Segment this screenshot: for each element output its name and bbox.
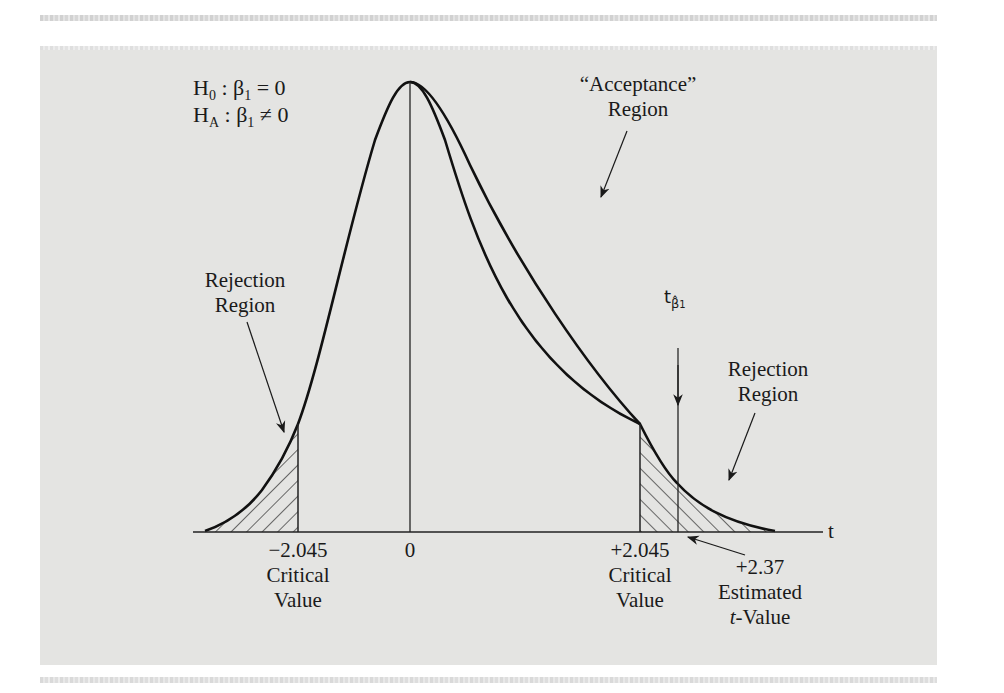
beta-symbol: : β	[216, 75, 244, 100]
beta-subscript: 1	[679, 299, 685, 310]
axis-label-t: t	[828, 519, 834, 544]
tick-value: −2.045	[243, 538, 353, 563]
t-hat-label: tβ̂1	[664, 284, 686, 317]
left-rejection-arrow	[247, 322, 284, 432]
t-distribution-curve-right	[410, 82, 775, 531]
estimated-t-value-label: +2.37 Estimated t-Value	[705, 555, 815, 630]
rejection-line1: Rejection	[190, 268, 300, 293]
right-rejection-label: Rejection Region	[713, 357, 823, 407]
rejection-line2: Region	[713, 382, 823, 407]
h-symbol: H	[193, 102, 209, 127]
blurred-text-line	[40, 677, 937, 683]
beta-symbol: : β	[219, 102, 247, 127]
hypothesis-value: ≠ 0	[254, 102, 288, 127]
alternative-hypothesis: HA : β1 ≠ 0	[193, 101, 288, 137]
estimated-value-arrow	[688, 537, 745, 555]
value-label: Value	[243, 588, 353, 613]
value-suffix: -Value	[736, 605, 791, 629]
value-label: Value	[585, 588, 695, 613]
tick-value: +2.045	[585, 538, 695, 563]
critical-label: Critical	[585, 563, 695, 588]
critical-label: Critical	[243, 563, 353, 588]
left-rejection-label: Rejection Region	[190, 268, 300, 318]
h-symbol: H	[193, 75, 209, 100]
t-value-label: t-Value	[705, 605, 815, 630]
estimated-label: Estimated	[705, 580, 815, 605]
tick-right-critical: +2.045 Critical Value	[585, 538, 695, 613]
tick-left-critical: −2.045 Critical Value	[243, 538, 353, 613]
t-symbol: t	[664, 286, 671, 307]
rejection-line2: Region	[190, 293, 300, 318]
tick-center: 0	[400, 538, 420, 563]
acceptance-line2: Region	[568, 97, 708, 122]
acceptance-region-label: “Acceptance” Region	[568, 72, 708, 122]
hypothesis-value: = 0	[251, 75, 285, 100]
left-rejection-area	[205, 424, 298, 532]
acceptance-arrow	[601, 131, 627, 197]
estimated-value: +2.37	[705, 555, 815, 580]
h-subscript: A	[209, 115, 219, 130]
rejection-line1: Rejection	[713, 357, 823, 382]
right-rejection-arrow	[729, 413, 755, 480]
acceptance-line1: “Acceptance”	[568, 72, 708, 97]
t-distribution-chart	[0, 0, 1004, 693]
right-rejection-area	[640, 424, 775, 532]
